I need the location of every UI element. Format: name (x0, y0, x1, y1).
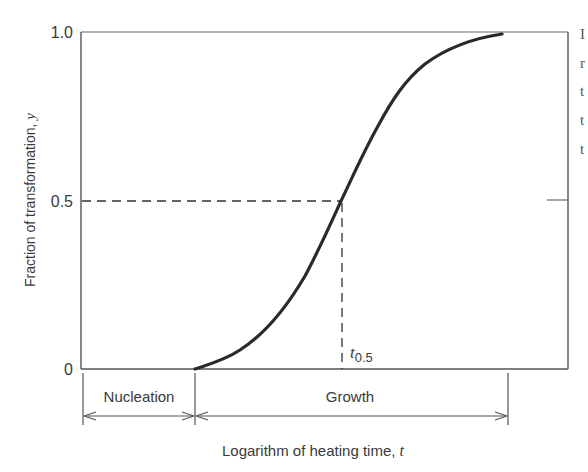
t-half-guides (82, 201, 342, 369)
adjacent-page-text: t (580, 141, 588, 157)
transformation-curve (195, 34, 502, 369)
y-tick-labels: 1.0 0.5 0 (51, 24, 73, 378)
nucleation-label: Nucleation (104, 388, 175, 405)
adjacent-page-text: t (580, 83, 588, 99)
adjacent-page-text: r (580, 55, 588, 71)
x-axis-label: Logarithm of heating time, t (222, 442, 405, 459)
transformation-kinetics-chart: 1.0 0.5 0 Fraction of transformation, y … (0, 0, 588, 472)
y-axis-label: Fraction of transformation, y (22, 113, 38, 287)
y-tick-0: 0 (64, 361, 73, 378)
nucleation-arrow (84, 412, 194, 420)
t-half-label: t0.5 (350, 343, 373, 365)
y-tick-0.5: 0.5 (51, 193, 73, 210)
y-tick-1.0: 1.0 (51, 24, 73, 41)
growth-arrow (196, 412, 507, 420)
growth-label: Growth (326, 388, 374, 405)
adjacent-page-text: I (580, 26, 588, 42)
adjacent-page-text: t (580, 112, 588, 128)
region-markers: Nucleation Growth (83, 373, 508, 425)
